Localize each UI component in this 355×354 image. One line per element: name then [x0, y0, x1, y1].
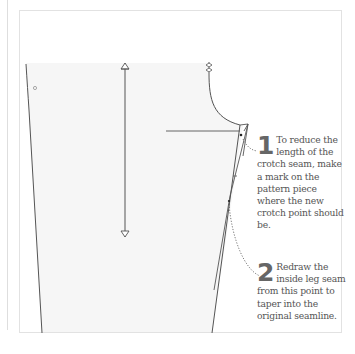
taper-point-mark [228, 200, 230, 202]
step-1-number: 1 [257, 135, 274, 157]
crotch-point-mark [240, 134, 243, 137]
pattern-piece [26, 63, 243, 332]
step-2-annotation: 2 Redraw the inside leg seam from this p… [257, 261, 347, 322]
dotted-leader-2 [229, 204, 260, 276]
step-1-annotation: 1 To reduce the length of the crotch sea… [257, 134, 347, 232]
step-2-number: 2 [257, 262, 274, 284]
